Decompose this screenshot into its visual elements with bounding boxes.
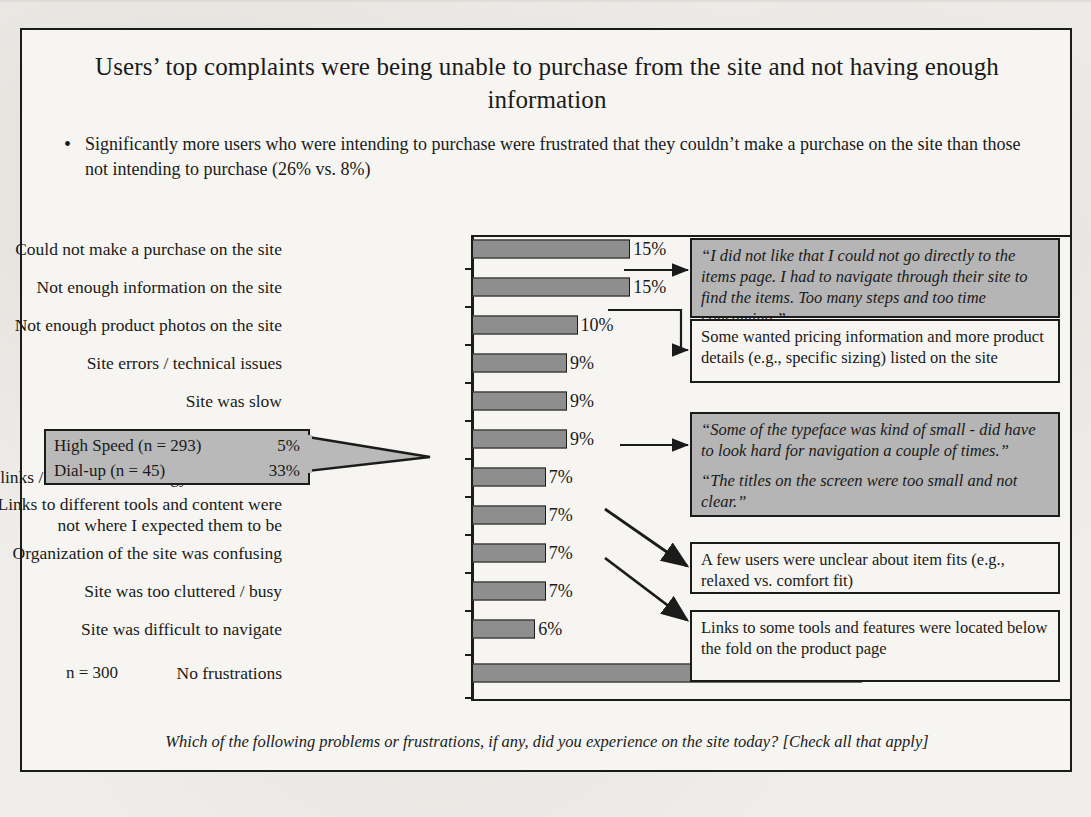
bar-row: Organization of the site was confusing7% [36, 534, 672, 572]
connection-speed-breakout-callout: High Speed (n = 293) 5% Dial-up (n = 45)… [44, 429, 310, 485]
axis-tick [465, 610, 472, 612]
bar-row: No frustrations37% [36, 654, 672, 692]
callout-below-fold: Links to some tools and features were lo… [690, 610, 1060, 682]
bar [472, 582, 546, 601]
bullet-point: • Significantly more users who were inte… [64, 132, 1029, 182]
bar-row: Site was too cluttered / busy7% [36, 572, 672, 610]
bar-category-label: Not enough product photos on the site [0, 315, 282, 336]
plot-bottom-border [471, 699, 1071, 701]
bar-category-label: Site was slow [0, 391, 282, 412]
bar [472, 278, 630, 297]
bar [472, 430, 567, 449]
axis-tick [465, 420, 472, 422]
axis-tick [465, 306, 472, 308]
slide-frame: Users’ top complaints were being unable … [20, 28, 1072, 772]
bar [472, 620, 535, 639]
sample-size-label: n = 300 [66, 663, 118, 683]
callout-quote-typeface: “Some of the typeface was kind of small … [690, 412, 1060, 517]
axis-tick [465, 572, 472, 574]
bullet-marker-icon: • [64, 132, 71, 182]
bar [472, 240, 630, 259]
bar [472, 354, 567, 373]
bullet-text: Significantly more users who were intend… [85, 132, 1029, 182]
bar-category-label: Links to different tools and content wer… [0, 494, 282, 536]
callout-paragraph: “The titles on the screen were too small… [701, 470, 1050, 512]
callout-pricing-info: Some wanted pricing information and more… [690, 319, 1060, 383]
slide-title: Users’ top complaints were being unable … [82, 50, 1012, 116]
axis-tick [465, 534, 472, 536]
bar-value-label: 15% [633, 239, 666, 259]
breakout-label-high-speed: High Speed (n = 293) [54, 433, 211, 458]
bar-row: Site was difficult to navigate6% [36, 610, 672, 648]
bar-value-label: 9% [570, 391, 594, 411]
bar-row: Not enough information on the site15% [36, 268, 672, 306]
survey-question-text: Which of the following problems or frust… [82, 732, 1012, 752]
bar-category-label: Not enough information on the site [0, 277, 282, 298]
callout-item-fits: A few users were unclear about item fits… [690, 542, 1060, 594]
bar-row: Links to different tools and content wer… [36, 496, 672, 534]
bar-row: Not enough product photos on the site10% [36, 306, 672, 344]
bar-value-label: 10% [581, 315, 614, 335]
bar-category-label: Site errors / technical issues [0, 353, 282, 374]
axis-tick [465, 496, 472, 498]
callout-paragraph: Some wanted pricing information and more… [701, 326, 1050, 368]
axis-tick [465, 344, 472, 346]
callout-pointer-icon [308, 435, 438, 481]
bar-row: Site was slow9% [36, 382, 672, 420]
bar-row: Could not make a purchase on the site15% [36, 230, 672, 268]
bar-value-label: 7% [549, 505, 573, 525]
axis-tick [465, 458, 472, 460]
bar-value-label: 6% [538, 619, 562, 639]
callout-quote-items-page: “I did not like that I could not go dire… [690, 238, 1060, 318]
axis-tick [465, 268, 472, 270]
bar-category-label: No frustrations [0, 663, 282, 684]
bar-value-label: 9% [570, 353, 594, 373]
axis-tick [465, 382, 472, 384]
bar-value-label: 7% [549, 581, 573, 601]
breakout-label-dial-up: Dial-up (n = 45) [54, 458, 175, 483]
axis-tick [465, 697, 472, 699]
bar-row: Site errors / technical issues9% [36, 344, 672, 382]
callout-paragraph: Links to some tools and features were lo… [701, 617, 1050, 659]
breakout-row-high-speed: High Speed (n = 293) 5% [54, 433, 300, 458]
bar-value-label: 7% [549, 543, 573, 563]
bar-category-label: Site was too cluttered / busy [0, 581, 282, 602]
bar-value-label: 9% [570, 429, 594, 449]
breakout-row-dial-up: Dial-up (n = 45) 33% [54, 458, 300, 483]
breakout-value-dial-up: 33% [269, 458, 300, 483]
callout-paragraph: “I did not like that I could not go dire… [701, 245, 1050, 329]
callout-paragraph: A few users were unclear about item fits… [701, 549, 1050, 591]
bar [472, 392, 567, 411]
bar-category-label: Site was difficult to navigate [0, 619, 282, 640]
bar [472, 544, 546, 563]
bar [472, 506, 546, 525]
bar [472, 316, 578, 335]
axis-tick [465, 654, 472, 656]
callout-paragraph: “Some of the typeface was kind of small … [701, 419, 1050, 461]
bar-value-label: 7% [549, 467, 573, 487]
breakout-value-high-speed: 5% [277, 433, 300, 458]
bar-category-label: Organization of the site was confusing [0, 543, 282, 564]
bar-category-label: Could not make a purchase on the site [0, 239, 282, 260]
bar-value-label: 15% [633, 277, 666, 297]
bar [472, 468, 546, 487]
